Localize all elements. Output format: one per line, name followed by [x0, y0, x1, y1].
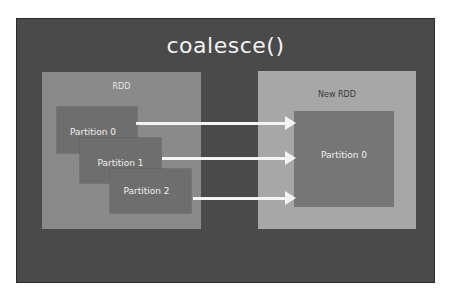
source-partition-2-label: Partition 2 [123, 186, 169, 196]
target-partition-0-label: Partition 0 [321, 150, 367, 160]
target-partition-0: Partition 0 [294, 111, 394, 207]
source-partition-0-label: Partition 0 [70, 127, 116, 137]
arrow-icon [193, 197, 286, 200]
diagram-board: coalesce() RDD Partition 0 Partition 1 P… [16, 18, 435, 283]
arrow-icon [162, 157, 286, 160]
source-partition-2: Partition 2 [110, 169, 191, 213]
source-rdd-label: RDD [42, 82, 201, 91]
arrow-icon [136, 122, 286, 125]
target-rdd-label: New RDD [258, 90, 416, 99]
diagram-title: coalesce() [17, 33, 434, 58]
source-partition-1-label: Partition 1 [97, 158, 143, 168]
